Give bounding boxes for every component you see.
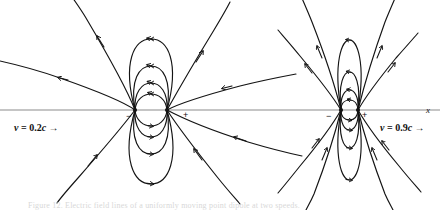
- charge-sign-positive-right: +: [362, 110, 367, 120]
- velocity-arrow-right: →: [412, 122, 425, 133]
- field-line-plot: [0, 0, 440, 210]
- charge-sign-negative-right: −: [326, 111, 331, 121]
- velocity-value-left: = 0.2: [18, 122, 41, 133]
- velocity-label-right: v = 0.9c →: [380, 122, 425, 133]
- velocity-arrow-left: →: [46, 122, 59, 133]
- x-axis-label: x: [426, 105, 430, 115]
- velocity-value-right: = 0.9: [384, 122, 407, 133]
- dipole-right-field-lines: [278, 0, 421, 210]
- figure-container: x − + − + v = 0.2c → v = 0.9c → Figure 1…: [0, 0, 440, 210]
- charge-sign-positive-left: +: [183, 110, 188, 120]
- charge-sign-negative-left: −: [126, 111, 131, 121]
- velocity-label-left: v = 0.2c →: [14, 122, 59, 133]
- figure-caption: Figure 12. Electric field lines of a uni…: [0, 201, 440, 210]
- dipole-left-field-lines: [0, 0, 302, 204]
